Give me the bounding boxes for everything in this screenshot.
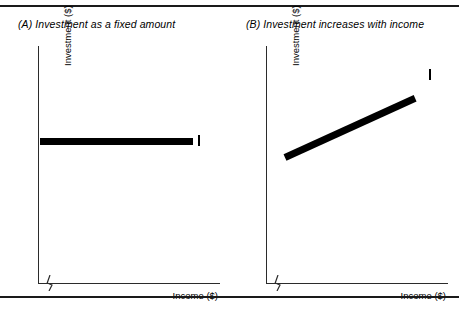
panel-b-title: (B) Investment increases with income — [246, 18, 424, 30]
figure-bottom-rule — [0, 296, 459, 298]
figure-container: (A) Investment as a fixed amount Investm… — [0, 0, 459, 310]
panel-a-investment-line — [40, 138, 193, 145]
panel-a-title: (A) Investment as a fixed amount — [18, 18, 175, 30]
panel-a-line-end-tick-icon — [198, 135, 200, 146]
panel-b-series — [266, 46, 448, 284]
panel-b-investment-line — [284, 95, 417, 161]
panel-b-line-end-tick-icon — [429, 69, 431, 80]
panel-b: (B) Investment increases with income Inv… — [232, 12, 454, 290]
panel-a-series — [38, 46, 220, 284]
panel-a-plot-area: Investment ($) Income ($) — [38, 46, 220, 284]
panel-a: (A) Investment as a fixed amount Investm… — [4, 12, 226, 290]
panel-b-plot-area: Investment ($) Income ($) — [266, 46, 448, 284]
